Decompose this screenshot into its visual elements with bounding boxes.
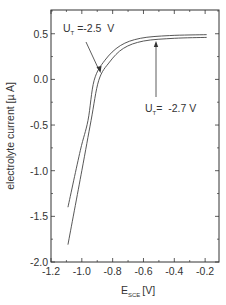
chart: -1.2-1.0-0.8-0.6-0.4-0.20.50.0-0.5-1.0-1…	[0, 0, 226, 305]
y-tick-label: 0.0	[33, 73, 48, 85]
arrowhead-icon	[154, 41, 158, 47]
y-axis-label: electrolyte current [µ A]	[4, 82, 16, 190]
x-tick-label: -0.6	[134, 265, 152, 277]
y-tick-label: 0.5	[33, 28, 48, 40]
annotation-ut-2-7: UT= -2.7 V	[145, 102, 196, 116]
data-series	[68, 35, 207, 245]
y-tick-label: -2.0	[30, 256, 48, 268]
x-tick-label: -0.2	[196, 265, 214, 277]
plot-frame	[51, 10, 219, 262]
y-tick-label: -1.0	[30, 165, 48, 177]
annotation-arrow-1	[86, 42, 99, 70]
x-tick-label: -0.8	[104, 265, 122, 277]
series-line-2	[68, 37, 207, 244]
annotation-ut-2-5: UT =-2.5 V	[63, 22, 114, 36]
y-tick-label: -1.5	[30, 210, 48, 222]
x-axis-label: ESCE[V]	[121, 284, 155, 298]
series-line-1	[68, 35, 207, 208]
axis-ticks: -1.2-1.0-0.8-0.6-0.4-0.20.50.0-0.5-1.0-1…	[30, 10, 219, 277]
x-tick-label: -1.0	[73, 265, 91, 277]
plot-border	[51, 10, 219, 262]
y-tick-label: -0.5	[30, 119, 48, 131]
x-tick-label: -0.4	[165, 265, 183, 277]
